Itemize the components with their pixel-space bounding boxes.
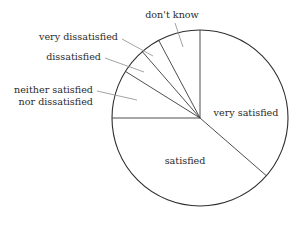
pie-chart-figure: very satisfiedsatisfiedneither satisfied… (0, 0, 302, 226)
pie-label-3: dissatisfied (46, 51, 101, 62)
pie-label-2-line1: neither satisfied (14, 84, 93, 95)
pie-chart-svg: very satisfiedsatisfiedneither satisfied… (0, 0, 302, 226)
pie-label-1: satisfied (165, 155, 206, 166)
pie-label-2: neither satisfiednor dissatisfied (14, 84, 93, 107)
pie-label-0: very satisfied (213, 107, 279, 118)
pie-label-2-line2: nor dissatisfied (19, 95, 93, 106)
pie-label-4: very dissatisfied (38, 31, 118, 42)
pie-label-5: don't know (145, 9, 199, 20)
